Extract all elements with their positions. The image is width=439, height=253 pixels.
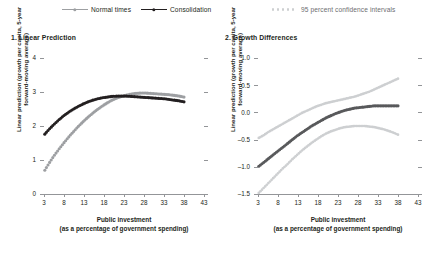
chart-legend: Normal times Consolidation 95 percent co… [0,6,439,24]
y-axis-tick [254,167,258,168]
x-axis-tick-label: 38 [390,199,406,206]
x-axis-tick [298,194,299,197]
y-axis-tick [418,167,422,168]
dotted-marker-icon [272,6,298,13]
plot-canvas [44,58,204,194]
y-axis-tick-label: –0.5 [228,136,250,143]
x-axis-tick [318,194,319,197]
x-axis-tick [258,194,259,197]
x-axis-tick-label: 33 [370,199,386,206]
plot-area [44,58,204,194]
x-axis-caption-line2: (as a percentage of government spending) [274,225,403,232]
x-axis-tick [184,194,185,197]
y-axis-tick [418,112,422,113]
legend-label-normal-times: Normal times [91,6,131,13]
x-axis-tick [104,194,105,197]
x-axis-tick [358,194,359,197]
x-axis-tick-label: 43 [196,199,212,206]
x-axis-caption-line2: (as a percentage of government spending) [60,225,189,232]
legend-item-normal-times: Normal times [62,6,131,13]
x-axis-tick-label: 23 [116,199,132,206]
y-axis-tick-label: 3 [14,88,36,95]
legend-label-confidence-intervals: 95 percent confidence intervals [301,6,395,13]
y-axis-tick [418,58,422,59]
x-axis-tick [144,194,145,197]
series-0 [43,91,185,171]
y-axis-tick [418,85,422,86]
y-axis-caption-line2: forward-moving average) [236,33,243,106]
x-axis-tick [418,194,419,197]
series-2 [257,125,399,195]
x-axis-tick [338,194,339,197]
y-axis-tick [204,58,208,59]
x-axis-tick-label: 8 [270,199,286,206]
x-axis-tick-label: 3 [36,199,52,206]
x-axis-tick [378,194,379,197]
x-axis-tick-label: 18 [96,199,112,206]
y-axis-tick [40,92,44,93]
x-axis-caption-line1: Public investment [97,216,152,223]
y-axis-tick [40,58,44,59]
x-axis-tick-label: 13 [76,199,92,206]
x-axis-caption-line1: Public investment [311,216,366,223]
y-axis-tick-label: 0.0 [228,109,250,116]
y-axis-tick [254,85,258,86]
x-axis-tick-label: 23 [330,199,346,206]
x-axis-caption: Public investment (as a percentage of go… [26,216,222,233]
y-axis-tick [204,126,208,127]
line-dot-marker-icon [62,6,88,13]
y-axis-tick-label: 4 [14,54,36,61]
x-axis-tick-label: 18 [310,199,326,206]
y-axis-caption-line1: Linear prediction (growth per capita, 5-… [15,7,22,132]
x-axis-tick-label: 28 [350,199,366,206]
y-axis-tick-label: –1.0 [228,163,250,170]
y-axis-tick [254,140,258,141]
y-axis-tick [40,126,44,127]
y-axis-tick-label: 0.5 [228,82,250,89]
x-axis-tick-label: 13 [290,199,306,206]
legend-label-consolidation: Consolidation [170,6,211,13]
x-axis-tick [124,194,125,197]
x-axis-tick-label: 28 [136,199,152,206]
x-axis-tick [278,194,279,197]
y-axis-tick-label: –1.5 [228,190,250,197]
y-axis-tick [204,160,208,161]
y-axis-tick [40,160,44,161]
legend-item-consolidation: Consolidation [141,6,211,13]
plot-canvas [258,58,418,194]
x-axis-tick [164,194,165,197]
x-axis-tick-label: 43 [410,199,426,206]
y-axis-tick-label: 1 [14,156,36,163]
chart-panel-linear-prediction: 1. Linear Prediction Linear prediction (… [6,30,221,253]
y-axis-tick [254,112,258,113]
x-axis-tick [398,194,399,197]
y-axis-tick [204,92,208,93]
x-axis-tick-label: 33 [156,199,172,206]
x-axis-tick-label: 38 [176,199,192,206]
y-axis-tick-label: 0 [14,190,36,197]
x-axis-caption: Public investment (as a percentage of go… [240,216,436,233]
y-axis-tick-label: 2 [14,122,36,129]
x-axis-tick-label: 3 [250,199,266,206]
line-dot-marker-icon [141,6,167,13]
chart-panel-growth-differences: 2. Growth Differences Linear prediction … [220,30,435,253]
series-1 [257,77,399,139]
plot-area [258,58,418,194]
x-axis-tick [204,194,205,197]
y-axis-tick [418,140,422,141]
y-axis-tick [254,58,258,59]
x-axis-tick [84,194,85,197]
legend-item-confidence-intervals: 95 percent confidence intervals [272,6,395,13]
x-axis-tick [64,194,65,197]
y-axis-tick-label: 1.0 [228,54,250,61]
x-axis-tick-label: 8 [56,199,72,206]
x-axis-tick [44,194,45,197]
y-axis-caption: Linear prediction (growth per capita, 5-… [15,5,30,133]
series-0 [257,104,399,167]
